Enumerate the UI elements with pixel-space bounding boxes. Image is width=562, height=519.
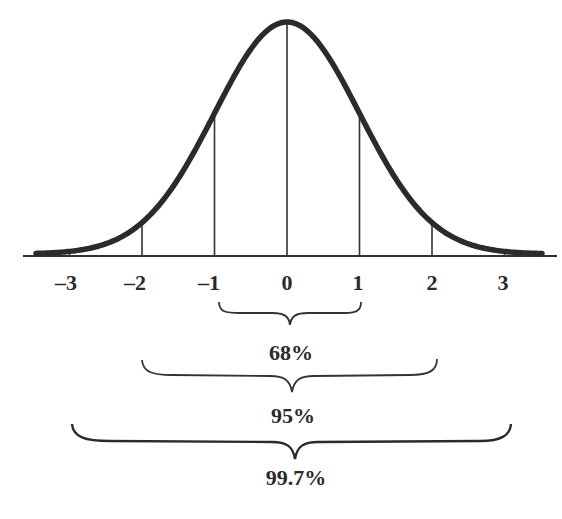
sigma-lines [70, 22, 505, 256]
tick-label-0: 0 [282, 272, 293, 294]
brace-99-7 [72, 424, 511, 459]
bell-curve [36, 22, 542, 254]
pct-label-95: 95% [271, 405, 315, 427]
brace-68 [219, 302, 361, 325]
pct-label-68: 68% [269, 342, 313, 364]
pct-label-99-7: 99.7% [266, 467, 327, 489]
tick-label-2: 2 [427, 272, 438, 294]
tick-label-1: 1 [353, 272, 364, 294]
tick-label-neg2: –2 [124, 272, 146, 294]
tick-label-3: 3 [498, 272, 509, 294]
tick-label-neg3: –3 [55, 272, 77, 294]
normal-distribution-chart [0, 0, 562, 519]
tick-label-neg1: –1 [198, 272, 220, 294]
